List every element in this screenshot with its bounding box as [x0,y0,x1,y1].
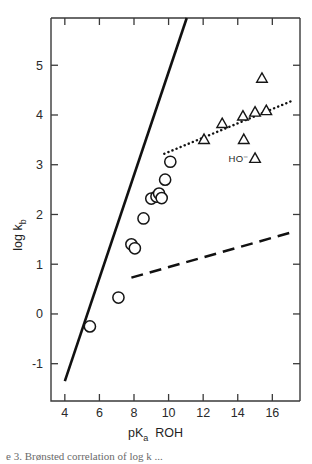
x-tick-label: 4 [61,406,68,420]
marker-triangle [217,118,228,127]
marker-triangle [250,107,261,116]
bronsted-solid-line [65,18,187,381]
y-axis-title-text: log kb [11,219,28,250]
marker-circle [113,292,124,303]
trend-lines [65,18,294,381]
x-axis-title-text: pKaROH [128,426,183,443]
bronsted-dotted-line [164,100,294,154]
figure-caption: e 3. Brønsted correlation of log k ... [0,450,312,464]
plot-annotations: HO⁻ [229,153,249,164]
y-tick-label: 4 [36,108,43,122]
x-tick-label: 14 [231,406,245,420]
marker-triangle [250,153,261,162]
y-axis-tick-labels: -1012345 [32,59,43,371]
x-axis-title: pKaROH [128,426,183,443]
y-tick-label: 2 [36,208,43,222]
y-tick-label: 0 [36,307,43,321]
caption-text: e 3. Brønsted correlation of log k ... [6,450,163,462]
data-markers [84,73,271,332]
x-tick-label: 16 [265,406,279,420]
x-axis-tick-labels: 46810121416 [61,406,279,420]
marker-circle [138,213,149,224]
x-tick-label: 12 [196,406,210,420]
x-tick-label: 6 [96,406,103,420]
bronsted-dashed-line [131,233,289,278]
y-tick-label: 5 [36,59,43,73]
x-axis-title-suffix: ROH [155,426,183,440]
x-tick-label: 10 [162,406,176,420]
y-axis-ticks [51,65,300,363]
figure-root: 46810121416 -1012345 HO⁻ pKaROHlog kb e … [0,0,312,464]
hydroxide-label: HO⁻ [229,153,249,164]
marker-circle [84,321,95,332]
marker-triangle [238,111,249,120]
x-tick-label: 8 [131,406,138,420]
x-axis-title-subscript: a [143,433,148,443]
y-tick-label: -1 [32,357,43,371]
y-axis-title-subscript: b [18,219,28,224]
y-tick-label: 1 [36,258,43,272]
marker-triangle [257,73,268,82]
marker-circle [160,174,171,185]
bronsted-plot: 46810121416 -1012345 HO⁻ pKaROHlog kb [0,0,312,464]
marker-circle [129,243,140,254]
marker-circle [156,192,167,203]
marker-circle [165,156,176,167]
marker-triangle [239,134,250,143]
y-tick-label: 3 [36,158,43,172]
y-axis-title: log kb [11,219,28,250]
